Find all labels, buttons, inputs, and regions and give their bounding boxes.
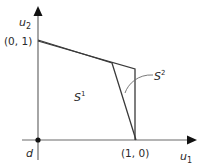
y-intercept-label: (0, 1) [4, 35, 32, 47]
origin-label: d [26, 147, 34, 160]
s2-label: S2 [154, 69, 165, 83]
bargaining-diagram: u2 u1 (0, 1) (1, 0) d S1 S2 [0, 0, 206, 168]
y-axis-label: u2 [19, 16, 31, 31]
x-intercept-label: (1, 0) [121, 147, 149, 159]
s1-label: S1 [74, 90, 85, 104]
disagreement-point [35, 137, 40, 142]
s2-leader-line [125, 75, 153, 93]
x-axis-label: u1 [180, 150, 192, 165]
y-axis-arrow-icon [34, 6, 43, 16]
x-axis-arrow-icon [187, 136, 197, 145]
